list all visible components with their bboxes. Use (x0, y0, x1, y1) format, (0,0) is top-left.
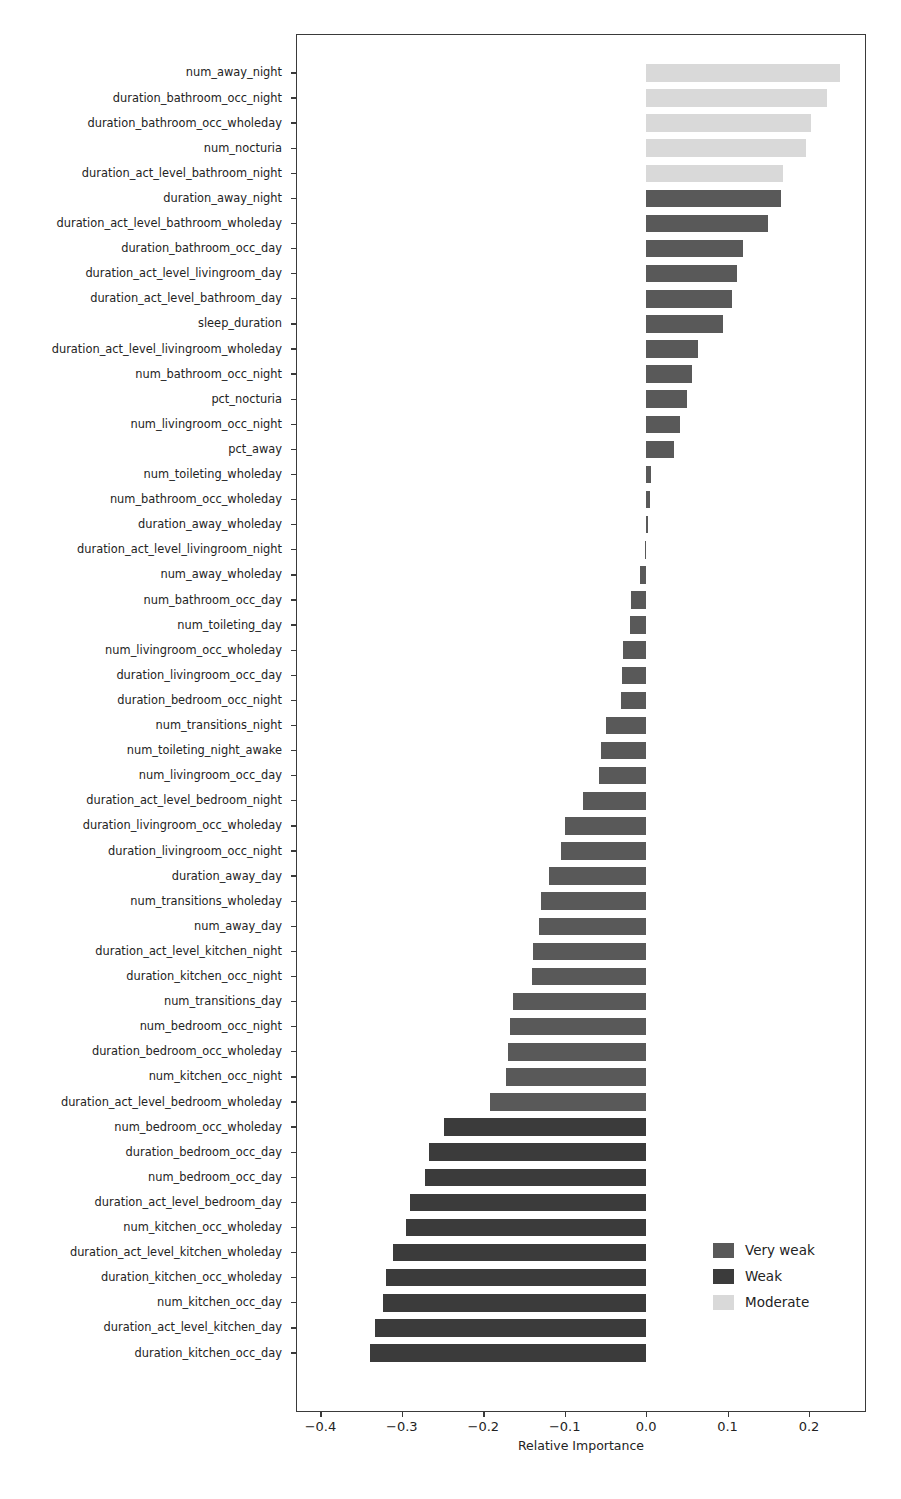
bar (561, 842, 647, 860)
y-tick-label: duration_away_wholeday (138, 518, 282, 530)
bar (533, 943, 646, 961)
y-tick-label: num_away_day (194, 920, 282, 932)
y-tick-label: pct_nocturia (211, 393, 282, 405)
bar-row (296, 989, 866, 1014)
bar (583, 792, 646, 810)
y-tick-label: duration_act_level_bathroom_wholeday (57, 217, 283, 229)
legend-item: Very weak (713, 1237, 815, 1263)
bar (646, 441, 674, 459)
y-tick-label: num_bathroom_occ_night (135, 368, 282, 380)
y-tick-label: num_livingroom_occ_wholeday (105, 644, 282, 656)
legend-swatch (713, 1243, 734, 1258)
x-tick-label: 0.0 (636, 1419, 657, 1434)
y-tick-label: duration_act_level_livingroom_day (85, 267, 282, 279)
bar-row (296, 1089, 866, 1114)
y-tick-label: duration_bathroom_occ_wholeday (87, 117, 282, 129)
bar (510, 1018, 646, 1036)
bar (646, 89, 827, 107)
legend-item: Moderate (713, 1289, 815, 1315)
y-tick-label: duration_act_level_bedroom_day (95, 1196, 282, 1208)
bar (410, 1194, 646, 1212)
y-tick-label: duration_act_level_livingroom_night (77, 543, 282, 555)
bar-row (296, 387, 866, 412)
bar (386, 1269, 647, 1287)
bar-row (296, 1340, 866, 1365)
bar-row (296, 512, 866, 537)
y-tick-label: duration_bedroom_occ_wholeday (92, 1045, 282, 1057)
bar (425, 1169, 646, 1187)
y-tick-label: duration_bathroom_occ_day (121, 242, 282, 254)
bar (646, 315, 723, 333)
legend-item: Weak (713, 1263, 815, 1289)
x-tick-label: −0.4 (305, 1419, 337, 1434)
y-tick-label: num_toileting_night_awake (127, 744, 282, 756)
bar (383, 1294, 646, 1312)
x-tick (402, 1412, 403, 1417)
bar-row (296, 462, 866, 487)
bar-row (296, 1315, 866, 1340)
bar (541, 892, 646, 910)
bar (490, 1093, 646, 1111)
bar-row (296, 1165, 866, 1190)
bar-row (296, 964, 866, 989)
bar-row (296, 663, 866, 688)
legend-label: Moderate (745, 1294, 809, 1310)
y-tick-label: duration_livingroom_occ_day (116, 669, 282, 681)
bar-row (296, 537, 866, 562)
y-tick-label: duration_act_level_kitchen_day (104, 1321, 282, 1333)
bar-row (296, 311, 866, 336)
bar-row (296, 261, 866, 286)
bar (370, 1344, 646, 1362)
bar-row (296, 914, 866, 939)
chart-root: num_away_nightduration_bathroom_occ_nigh… (0, 0, 901, 1499)
bar-row (296, 1190, 866, 1215)
bar (406, 1219, 646, 1237)
bar (508, 1043, 646, 1061)
y-tick-label: duration_livingroom_occ_night (108, 845, 282, 857)
bar-row (296, 1140, 866, 1165)
bar-row (296, 111, 866, 136)
y-tick-label: num_transitions_night (156, 719, 282, 731)
y-tick-label: num_bedroom_occ_day (148, 1171, 282, 1183)
y-tick-label: duration_kitchen_occ_wholeday (101, 1271, 282, 1283)
bar-row (296, 562, 866, 587)
bar-row (296, 362, 866, 387)
y-tick-label: duration_kitchen_occ_day (135, 1347, 282, 1359)
bar-row (296, 613, 866, 638)
y-tick-label: duration_away_day (172, 870, 282, 882)
y-tick-label: num_kitchen_occ_wholeday (123, 1221, 282, 1233)
bar (539, 918, 646, 936)
bar (532, 968, 646, 986)
bar (621, 692, 646, 710)
legend-swatch (713, 1269, 734, 1284)
x-tick-label: −0.2 (467, 1419, 499, 1434)
y-tick-label: num_toileting_day (177, 619, 282, 631)
bar-row (296, 763, 866, 788)
bar-row (296, 161, 866, 186)
y-tick-label: num_bathroom_occ_day (144, 594, 282, 606)
y-tick-label: num_bathroom_occ_wholeday (110, 493, 282, 505)
bar-row (296, 738, 866, 763)
legend-label: Very weak (745, 1242, 815, 1258)
y-axis-labels: num_away_nightduration_bathroom_occ_nigh… (0, 34, 296, 1412)
y-tick-label: duration_bedroom_occ_day (126, 1146, 282, 1158)
bar-row (296, 713, 866, 738)
bar (375, 1319, 646, 1337)
bar (630, 616, 646, 634)
x-tick-label: −0.3 (386, 1419, 418, 1434)
bar-row (296, 838, 866, 863)
bar (622, 667, 646, 685)
y-tick-label: duration_bedroom_occ_night (117, 694, 282, 706)
bar (601, 742, 646, 760)
bar-row (296, 587, 866, 612)
bar-row (296, 136, 866, 161)
bar (640, 566, 647, 584)
bar (646, 165, 783, 183)
x-tick (483, 1412, 484, 1417)
bar-row (296, 1039, 866, 1064)
y-tick-label: duration_away_night (163, 192, 282, 204)
bar (646, 64, 840, 82)
bar (444, 1118, 646, 1136)
bar (646, 265, 736, 283)
bar (645, 541, 647, 559)
